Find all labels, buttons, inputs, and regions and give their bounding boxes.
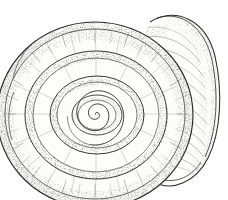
shell-illustration-figure bbox=[0, 0, 228, 200]
shell-drawing bbox=[0, 0, 228, 200]
